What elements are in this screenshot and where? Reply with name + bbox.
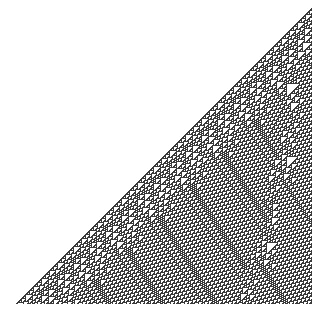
automaton-pattern-canvas [15,6,312,304]
cellular-automaton-figure: Cellular automaton evolution [0,0,312,321]
